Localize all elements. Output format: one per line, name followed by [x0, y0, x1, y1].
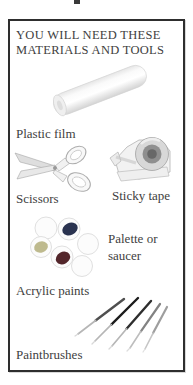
scissors-handles: [53, 145, 94, 193]
plastic-film-label: Plastic film: [16, 125, 76, 142]
brush: [75, 299, 124, 336]
brushes: [75, 298, 167, 352]
palette-icon: [28, 216, 106, 284]
scissors-label: Scissors: [16, 190, 59, 207]
plastic-film-roll-icon: [44, 58, 156, 122]
sticky-tape-label: Sticky tape: [112, 187, 170, 204]
tape-dispenser-icon: [108, 131, 182, 188]
tape-roll: [136, 138, 169, 171]
book-page: YOU WILL NEED THESE MATERIALS AND TOOLS …: [0, 0, 193, 385]
paintbrushes-icon: [72, 296, 176, 355]
scissors-blades: [15, 153, 55, 179]
box-title: YOU WILL NEED THESE MATERIALS AND TOOLS: [16, 28, 178, 58]
paintbrushes-label: Paintbrushes: [16, 346, 82, 363]
cropped-glyph-fragment: [74, 0, 80, 4]
scissors-icon: [13, 145, 97, 193]
brush: [143, 307, 167, 352]
palette-label: Palette or saucer: [108, 230, 170, 264]
scissors-pivot: [53, 166, 57, 170]
film-roll: [50, 62, 149, 118]
